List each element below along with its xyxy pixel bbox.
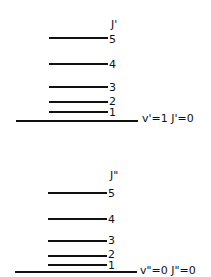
lower-level-5-label: 5 (108, 188, 115, 199)
upper-level-4-line (49, 63, 108, 65)
upper-level-3-line (49, 86, 108, 88)
lower-baseline (15, 271, 137, 273)
lower-level-5-line (48, 192, 107, 194)
lower-level-3-line (48, 240, 107, 242)
upper-state-label: v'=1 J'=0 (142, 113, 194, 124)
lower-state-label: v"=0 J"=0 (140, 265, 196, 276)
upper-level-3-label: 3 (109, 82, 116, 93)
upper-level-1-line (49, 111, 108, 113)
upper-level-5-line (49, 37, 108, 39)
upper-j-header: J' (111, 19, 117, 30)
lower-j-header: J" (110, 170, 118, 181)
lower-level-1-label: 1 (108, 260, 115, 271)
upper-level-1-label: 1 (109, 107, 116, 118)
lower-level-3-label: 3 (108, 235, 115, 246)
upper-baseline (16, 120, 138, 122)
lower-level-4-label: 4 (108, 214, 115, 225)
lower-level-4-line (48, 218, 107, 220)
upper-level-5-label: 5 (109, 34, 116, 45)
upper-level-2-line (49, 101, 108, 103)
lower-level-1-line (48, 264, 107, 266)
lower-level-2-line (48, 255, 107, 257)
upper-level-4-label: 4 (109, 59, 116, 70)
